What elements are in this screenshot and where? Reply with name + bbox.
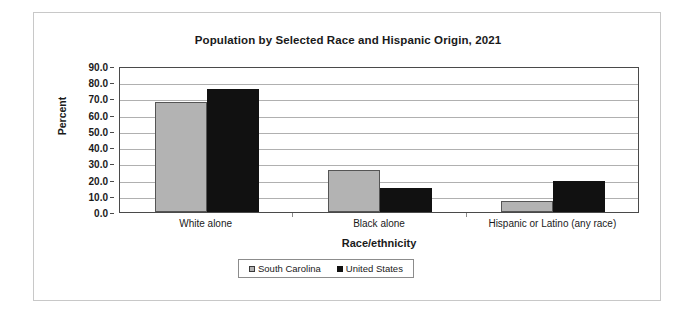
bar-united-states xyxy=(553,181,605,212)
y-tick-label: 40.0 xyxy=(89,143,108,154)
y-tick-mark xyxy=(110,116,114,117)
x-axis-title: Race/ethnicity xyxy=(119,237,639,249)
y-tick-label: 10.0 xyxy=(89,191,108,202)
y-tick-mark xyxy=(110,148,114,149)
y-tick-mark xyxy=(110,164,114,165)
x-tick-mark xyxy=(466,213,467,217)
gridline xyxy=(120,84,638,85)
legend-entry: United States xyxy=(337,263,403,274)
x-tick-label: Hispanic or Latino (any race) xyxy=(488,218,616,229)
y-tick-label: 20.0 xyxy=(89,175,108,186)
bar-south-carolina xyxy=(328,170,380,212)
legend-label: United States xyxy=(346,263,403,274)
y-tick-mark xyxy=(110,181,114,182)
bar-south-carolina xyxy=(155,102,207,212)
y-tick-label: 90.0 xyxy=(89,62,108,73)
x-tick-label: Black alone xyxy=(353,218,405,229)
y-axis-tick-labels: 90.080.070.060.050.040.030.020.010.00.0 xyxy=(34,67,114,213)
y-tick-mark xyxy=(110,132,114,133)
y-tick-mark xyxy=(110,83,114,84)
y-tick-mark xyxy=(110,213,114,214)
plot-area xyxy=(119,67,639,213)
x-tick-mark xyxy=(292,213,293,217)
y-tick-mark xyxy=(110,197,114,198)
legend-swatch-icon xyxy=(337,266,343,272)
legend-entry: South Carolina xyxy=(249,263,321,274)
y-tick-mark xyxy=(110,67,114,68)
y-tick-label: 50.0 xyxy=(89,126,108,137)
bar-united-states xyxy=(380,188,432,212)
bar-south-carolina xyxy=(501,201,553,212)
legend-swatch-icon xyxy=(249,266,255,272)
chart-title: Population by Selected Race and Hispanic… xyxy=(34,34,662,46)
x-tick-label: White alone xyxy=(179,218,232,229)
chart-legend: South CarolinaUnited States xyxy=(238,259,414,278)
legend-label: South Carolina xyxy=(258,263,321,274)
y-tick-label: 30.0 xyxy=(89,159,108,170)
y-tick-label: 70.0 xyxy=(89,94,108,105)
y-tick-mark xyxy=(110,99,114,100)
bar-united-states xyxy=(207,89,259,212)
x-axis-tick-labels: White aloneBlack aloneHispanic or Latino… xyxy=(119,218,639,234)
y-tick-label: 0.0 xyxy=(94,208,108,219)
y-tick-label: 60.0 xyxy=(89,110,108,121)
y-tick-label: 80.0 xyxy=(89,78,108,89)
chart-figure: Population by Selected Race and Hispanic… xyxy=(33,12,661,301)
